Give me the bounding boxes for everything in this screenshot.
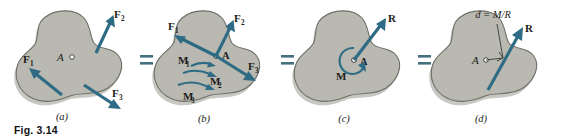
panel-b-force-3-label: F — [248, 60, 255, 72]
panel-a-body — [14, 11, 121, 105]
panel-d-label: (d) — [475, 113, 488, 125]
panel-b-force-1-label: F — [168, 20, 175, 32]
panel-b-moment-1-subscript: 1 — [186, 61, 190, 69]
panel-d-resultant-label: R — [525, 22, 534, 34]
figure-3-14: A F 2 F 1 F 3 (a) — [0, 0, 565, 139]
panel-b-force-1-subscript: 1 — [175, 27, 179, 35]
panel-d-point-label: A — [471, 54, 479, 66]
panel-d-body — [429, 11, 536, 105]
panel-b: A F 2 F 1 F 3 — [152, 11, 259, 125]
panel-b-force-2-label: F — [234, 12, 241, 24]
point-a-marker — [70, 55, 75, 60]
panel-a: A F 2 F 1 F 3 (a) — [14, 8, 125, 123]
panel-c-label: (c) — [338, 113, 350, 125]
equals-sign-1 — [140, 55, 153, 65]
panel-a-force-3-subscript: 3 — [119, 94, 123, 102]
panel-b-force-3-subscript: 3 — [255, 67, 259, 75]
equals-sign-3 — [418, 55, 431, 65]
panel-a-point-label: A — [56, 51, 64, 63]
panel-b-label: (b) — [198, 113, 211, 125]
panel-d: A R d = M/R (d) — [429, 9, 536, 125]
panel-b-moment-2-subscript: 2 — [218, 82, 222, 90]
panel-a-force-1-label: F — [23, 53, 30, 65]
panel-a-label: (a) — [56, 111, 69, 123]
panel-c-moment-label: M — [336, 70, 347, 82]
figure-canvas: A F 2 F 1 F 3 (a) — [0, 0, 565, 139]
panel-c: A R M (c) — [292, 11, 399, 125]
panel-b-moment-3-subscript: 3 — [191, 97, 195, 105]
figure-caption: Fig. 3.14 — [14, 124, 58, 136]
panel-a-force-2-subscript: 2 — [121, 15, 125, 23]
panel-a-force-2-label: F — [114, 8, 121, 20]
panel-a-force-3-label: F — [112, 87, 119, 99]
equals-sign-2 — [281, 55, 294, 65]
panel-a-force-1-subscript: 1 — [30, 60, 34, 68]
panel-d-dimension-label: d = M/R — [475, 9, 511, 20]
panel-b-force-2-subscript: 2 — [241, 19, 245, 27]
panel-a-force-2 — [96, 15, 115, 53]
panel-c-resultant-label: R — [388, 12, 397, 24]
